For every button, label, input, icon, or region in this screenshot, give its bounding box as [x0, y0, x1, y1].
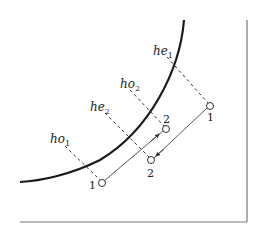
- point-inner-1-label: 1: [89, 179, 96, 192]
- point-inner-1: [99, 180, 106, 187]
- point-outer-2-label: 2: [147, 167, 154, 180]
- point-inner-2: [163, 126, 170, 133]
- path-inner-arrow: [150, 135, 158, 142]
- path-outer-arrow: [157, 149, 164, 155]
- point-outer-1: [207, 103, 214, 110]
- dashed-line-he2: [105, 113, 149, 157]
- label-ho1: ho1: [50, 132, 70, 148]
- label-ho2: ho2: [120, 77, 140, 93]
- point-outer-1-label: 1: [207, 111, 214, 124]
- label-he2: he2: [90, 100, 110, 116]
- dashed-line-he1: [167, 57, 208, 103]
- dashed-line-ho2: [130, 90, 164, 126]
- point-outer-2: [148, 157, 155, 164]
- wall-diagram: 1 2 2 1 he1 ho2 he2 ho1: [0, 0, 259, 234]
- label-he1: he1: [153, 44, 173, 60]
- point-inner-2-label: 2: [163, 113, 170, 126]
